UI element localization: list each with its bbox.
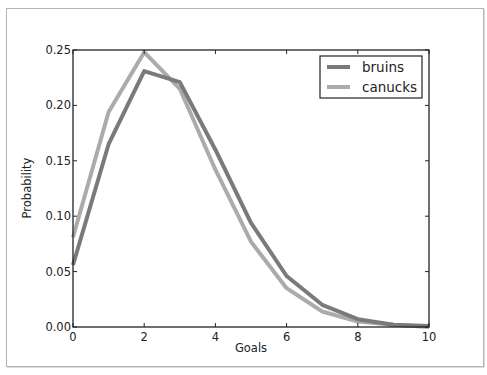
x-axis-label: Goals [235, 341, 267, 355]
x-tick-label: 10 [422, 330, 437, 344]
legend-label-bruins: bruins [362, 59, 404, 75]
y-axis-label: Probability [20, 157, 34, 218]
y-tick-label: 0.20 [45, 98, 71, 112]
line-chart: 02468100.000.050.100.150.200.25 Goals Pr… [0, 0, 487, 375]
y-tick-label: 0.15 [45, 154, 71, 168]
y-tick-label: 0.00 [45, 320, 71, 334]
y-tick-label: 0.25 [45, 43, 71, 57]
x-tick-label: 6 [283, 330, 290, 344]
legend-label-canucks: canucks [362, 79, 417, 95]
y-tick-label: 0.10 [45, 209, 71, 223]
x-tick-label: 8 [354, 330, 361, 344]
legend: bruins canucks [320, 56, 422, 98]
x-tick-label: 2 [141, 330, 148, 344]
y-tick-label: 0.05 [45, 265, 71, 279]
x-tick-label: 4 [212, 330, 219, 344]
series-line-bruins [73, 71, 429, 326]
